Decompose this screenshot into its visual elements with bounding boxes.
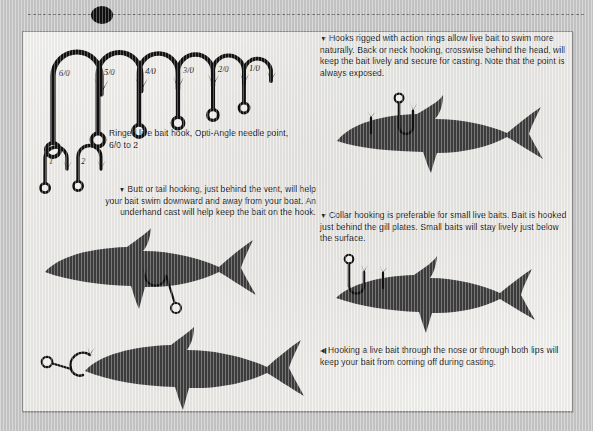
caption-collar-hooking: ▼Collar hooking is preferable for small … — [320, 210, 572, 245]
caption-back-neck-text: Hooks rigged with action rings allow liv… — [320, 33, 565, 78]
caption-butt-tail-text: Butt or tail hooking, just behind the ve… — [105, 184, 316, 217]
punch-hole-mark — [91, 6, 113, 24]
hook-size-label-2-0: 2/0 — [218, 64, 229, 74]
hook-size-label-2: 2 — [81, 156, 85, 166]
triangle-down-icon: ▼ — [320, 35, 327, 42]
fish-butt-tail-hooked — [33, 228, 283, 328]
fish-nose-hooked — [33, 327, 323, 412]
hook-chart-caption: Ringed live bait hook, Opti-Angle needle… — [109, 128, 289, 151]
caption-nose-hooking: ◀Hooking a live bait through the nose or… — [320, 345, 570, 368]
hook-size-label-6-0: 6/0 — [59, 68, 70, 78]
caption-collar-text: Collar hooking is preferable for small l… — [320, 210, 566, 243]
hook-size-label-5-0: 5/0 — [104, 67, 115, 77]
hook-size-label-4-0: 4/0 — [145, 66, 156, 76]
hook-size-label-1-0: 1/0 — [249, 63, 260, 73]
hook-chart-caption-text: Ringed live bait hook, Opti-Angle needle… — [109, 128, 288, 150]
triangle-down-icon: ▼ — [119, 186, 126, 193]
triangle-down-icon: ▼ — [320, 212, 327, 219]
cut-guide-line — [28, 14, 584, 15]
fish-collar-hooked — [326, 254, 566, 339]
caption-back-neck-hooking: ▼Hooks rigged with action rings allow li… — [320, 33, 570, 79]
caption-butt-tail-hooking: ▼Butt or tail hooking, just behind the v… — [101, 184, 316, 219]
hook-size-label-1: 1 — [49, 156, 53, 166]
illustration-page: 6/0 5/0 4/0 3/0 2/0 1/0 1 2 Ringed live … — [22, 31, 573, 412]
fish-back-neck-hooked — [321, 89, 571, 179]
caption-nose-text: Hooking a live bait through the nose or … — [320, 345, 559, 367]
hook-size-label-3-0: 3/0 — [183, 65, 194, 75]
